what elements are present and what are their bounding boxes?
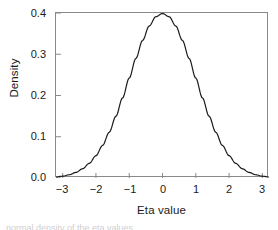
density-curve-path [56, 13, 269, 177]
y-tick-label: 0.2 [12, 90, 46, 101]
density-curve-svg [56, 13, 269, 178]
x-axis-title: Eta value [55, 204, 268, 216]
y-tick-label: 0.0 [12, 172, 46, 183]
y-tick-label: 0.3 [12, 49, 46, 60]
y-axis-ticks [56, 13, 61, 178]
y-tick-label: 0.1 [12, 131, 46, 142]
x-tick-label: 3 [248, 184, 276, 195]
x-tick-label: −3 [48, 184, 76, 195]
x-axis-ticks [63, 173, 263, 178]
clipped-caption: normal density of the eta values [6, 223, 272, 230]
x-tick-label: 1 [182, 184, 210, 195]
density-plot-figure: Density 0.4 0.3 0.2 0.1 0.0 −3 −2 −1 0 1… [0, 0, 278, 230]
y-axis-tick-labels: 0.4 0.3 0.2 0.1 0.0 [6, 0, 46, 177]
plot-area [55, 12, 268, 177]
x-tick-label: −1 [116, 184, 144, 195]
y-tick-label: 0.4 [12, 8, 46, 19]
x-tick-label: 2 [215, 184, 243, 195]
x-tick-label: −2 [82, 184, 110, 195]
x-tick-label: 0 [149, 184, 177, 195]
